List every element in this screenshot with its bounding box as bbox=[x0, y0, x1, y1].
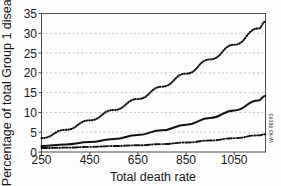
y-tick-label: 5 bbox=[30, 126, 37, 140]
x-tick-label: 850 bbox=[176, 153, 196, 167]
who-credit-label: WHO 96093 bbox=[268, 113, 274, 142]
chart-figure: 05101520253035 2504506508501050 Total de… bbox=[0, 0, 281, 186]
x-axis-title: Total death rate bbox=[110, 170, 196, 184]
y-tick-label: 20 bbox=[24, 66, 38, 80]
y-axis-title: Percentage of total Group 1 diseases bbox=[0, 0, 14, 186]
y-tick-label: 35 bbox=[24, 7, 38, 21]
chart-svg: 05101520253035 2504506508501050 Total de… bbox=[0, 0, 281, 186]
x-tick-label: 650 bbox=[128, 153, 148, 167]
y-tick-label: 10 bbox=[24, 106, 38, 120]
y-tick-label: 25 bbox=[24, 47, 38, 61]
x-tick-label: 450 bbox=[80, 153, 100, 167]
y-tick-label: 15 bbox=[24, 86, 38, 100]
x-tick-label: 1050 bbox=[221, 153, 248, 167]
y-tick-label: 30 bbox=[24, 27, 38, 41]
x-tick-label: 250 bbox=[31, 153, 51, 167]
